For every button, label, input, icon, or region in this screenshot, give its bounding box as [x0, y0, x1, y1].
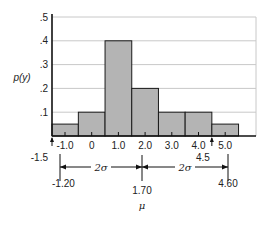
y-axis-label: p(y) [12, 72, 30, 83]
arrow-up-icon [210, 137, 214, 142]
x-tick-label: 0 [89, 140, 95, 151]
x-tick-label: -1.0 [56, 140, 74, 151]
arrow-right-icon [136, 165, 142, 170]
mean-value-label: 1.70 [132, 185, 152, 196]
left-mark-label: -1.5 [31, 152, 49, 163]
arrow-right-icon [222, 165, 228, 170]
arrow-left-icon [60, 165, 66, 170]
x-tick-label: 4.0 [192, 140, 206, 151]
histogram-chart: .1.2.3.4.5-1.001.02.03.04.05.0p(y) -1.54… [0, 0, 271, 225]
y-tick-label: .2 [40, 83, 49, 94]
y-tick-label: .5 [40, 12, 49, 23]
arrow-left-icon [142, 165, 148, 170]
two-sigma-label: 2σ [177, 162, 192, 173]
right-bound-label: 4.60 [218, 178, 238, 189]
arrow-up-icon [50, 137, 54, 142]
right-mark-label: 4.5 [196, 152, 210, 163]
x-tick-label: 1.0 [111, 140, 125, 151]
x-tick-label: 5.0 [218, 140, 232, 151]
x-tick-label: 2.0 [138, 140, 152, 151]
histogram-bar [132, 88, 159, 136]
x-tick-label: 3.0 [165, 140, 179, 151]
y-tick-label: .3 [40, 59, 49, 70]
y-tick-label: .1 [40, 107, 49, 118]
y-tick-label: .4 [40, 35, 49, 46]
histogram-bar [105, 41, 132, 136]
mean-symbol: μ [139, 200, 146, 211]
two-sigma-label: 2σ [93, 162, 108, 173]
left-bound-label: -1.20 [52, 178, 75, 189]
